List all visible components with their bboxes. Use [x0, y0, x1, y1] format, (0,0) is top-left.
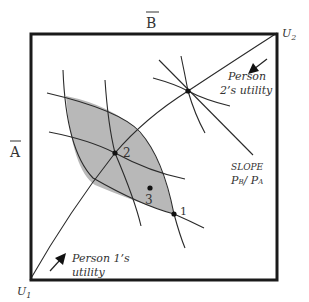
axis-label-b: B: [146, 15, 156, 31]
person2-utility-line2: 2’s utility: [219, 84, 273, 97]
person1-utility-line2: utility: [72, 266, 105, 279]
edgeworth-box-diagram: 2 1 3 B A U2 U1 Person 2’s utility SLOPE…: [0, 0, 309, 302]
slope-label: SLOPE: [231, 162, 264, 172]
slope-ratio: PB/ PA: [230, 174, 263, 187]
point-upper-tangency: [185, 88, 190, 93]
person1-arrow-shaft: [50, 260, 60, 271]
point-3: [147, 185, 152, 190]
origin-u1: U1: [17, 285, 31, 300]
point-1: [171, 211, 176, 216]
point-2: [112, 150, 117, 155]
point-3-label: 3: [145, 193, 153, 207]
point-1-label: 1: [180, 205, 187, 218]
person2-utility-line1: Person: [227, 70, 266, 83]
person1-utility-line1: Person 1’s: [71, 252, 130, 265]
origin-u2: U2: [282, 27, 296, 42]
point-2-label: 2: [123, 146, 131, 160]
axis-label-a: A: [9, 144, 21, 160]
